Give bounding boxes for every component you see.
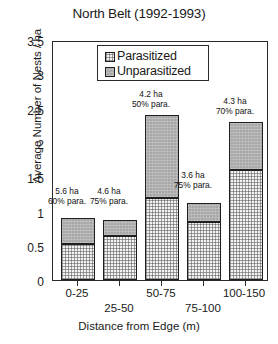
bar-annotation-50-75: 4.2 ha 50% para. <box>120 89 182 109</box>
x-tick-mark <box>203 281 204 286</box>
legend-label-unparasitized: Unparasitized <box>117 65 191 78</box>
x-tick-mark <box>245 281 246 286</box>
annotation-area: 4.3 ha <box>204 96 266 106</box>
x-tick-label-0-25: 0-25 <box>47 287 107 299</box>
bar-segment-parasitized <box>229 170 263 280</box>
legend-item-parasitized: Parasitized <box>105 49 208 64</box>
x-tick-mark <box>119 281 120 286</box>
bar-0-25 <box>61 218 95 280</box>
bar-segment-parasitized <box>145 198 179 280</box>
x-tick-label-100-150: 100-150 <box>213 287 275 299</box>
y-tick-label: 0 <box>8 275 44 289</box>
x-tick-label-50-75: 50-75 <box>131 287 191 299</box>
bar-segment-unparasitized <box>229 122 263 169</box>
y-tick-label: 0.5 <box>8 241 44 255</box>
legend-label-parasitized: Parasitized <box>117 50 177 63</box>
annotation-area: 3.6 ha <box>162 170 224 180</box>
legend-swatch-unparasitized-icon <box>105 67 115 77</box>
annotation-parasitism: 75% para. <box>162 180 224 190</box>
x-tick-mark <box>77 281 78 286</box>
bar-annotation-25-50: 4.6 ha 75% para. <box>78 186 140 206</box>
x-tick-label-25-50: 25-50 <box>89 302 149 314</box>
x-axis-label: Distance from Edge (m) <box>0 320 278 332</box>
bar-segment-unparasitized <box>103 220 137 236</box>
bar-segment-parasitized <box>61 244 95 280</box>
annotation-area: 4.2 ha <box>120 89 182 99</box>
x-tick-label-75-100: 75-100 <box>173 302 233 314</box>
chart-container: North Belt (1992-1993) 3.5 3 2.5 2 1.5 1… <box>0 0 278 344</box>
legend-item-unparasitized: Unparasitized <box>105 64 208 79</box>
bar-100-150 <box>229 122 263 280</box>
bar-segment-unparasitized <box>61 218 95 244</box>
bar-75-100 <box>187 203 221 281</box>
x-tick-mark <box>161 281 162 286</box>
bar-annotation-75-100: 3.6 ha 75% para. <box>162 170 224 190</box>
legend-swatch-parasitized-icon <box>105 52 115 62</box>
legend: Parasitized Unparasitized <box>97 45 209 81</box>
y-axis-label: Average Number of Nests / ha <box>31 16 43 196</box>
bar-segment-parasitized <box>187 222 221 280</box>
y-tick-label: 1 <box>8 207 44 221</box>
annotation-parasitism: 50% para. <box>120 99 182 109</box>
annotation-parasitism: 75% para. <box>78 196 140 206</box>
bar-50-75 <box>145 115 179 280</box>
bar-segment-parasitized <box>103 236 137 280</box>
bar-segment-unparasitized <box>187 203 221 222</box>
annotation-area: 4.6 ha <box>78 186 140 196</box>
bar-25-50 <box>103 220 137 280</box>
bar-annotation-100-150: 4.3 ha 70% para. <box>204 96 266 116</box>
annotation-parasitism: 70% para. <box>204 106 266 116</box>
